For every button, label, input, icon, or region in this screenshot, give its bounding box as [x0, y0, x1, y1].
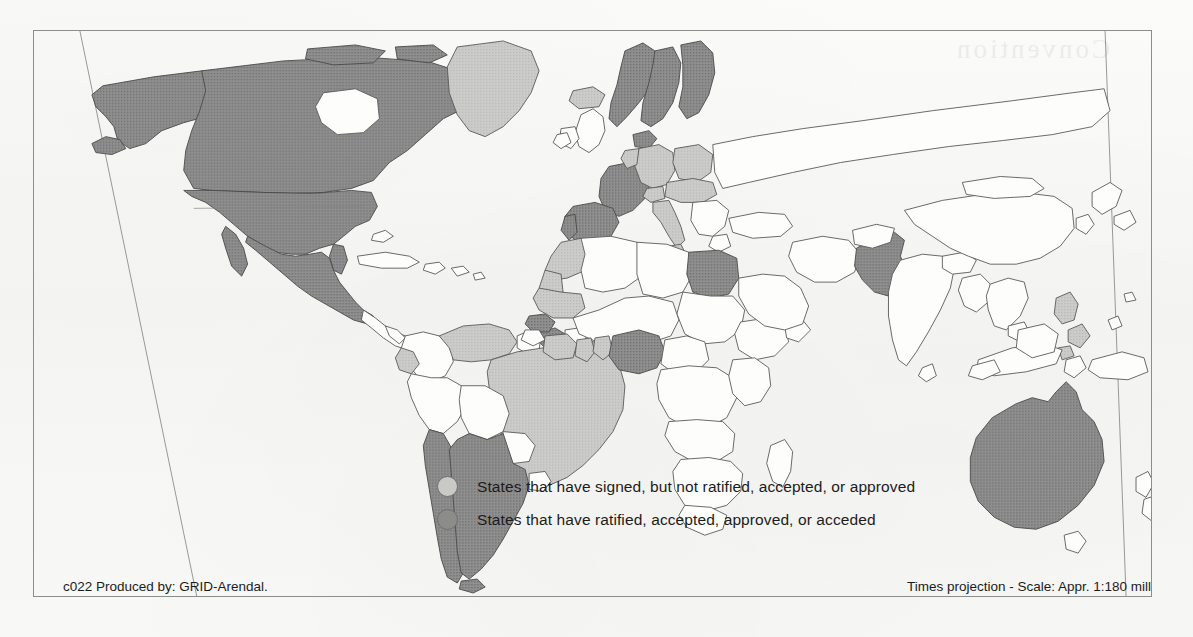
legend-item-ratified[interactable]: States that have ratified, accepted, app… [437, 503, 915, 536]
legend-swatch-signed [437, 476, 458, 497]
legend-swatch-ratified [437, 509, 458, 530]
region-north-america [92, 41, 605, 350]
map-page: Convention .land { fill:#fdfdfc; stroke:… [0, 0, 1193, 637]
legend-label-ratified: States that have ratified, accepted, app… [477, 511, 876, 529]
region-south-america [395, 324, 625, 593]
projection-scale-note: Times projection - Scale: Appr. 1:180 mi… [907, 579, 1151, 594]
legend: States that have signed, but not ratifie… [437, 470, 915, 536]
legend-label-signed: States that have signed, but not ratifie… [477, 478, 915, 496]
region-asia [739, 176, 1148, 381]
producer-credit: c022 Produced by: GRID-Arendal. [63, 579, 268, 594]
legend-item-signed[interactable]: States that have signed, but not ratifie… [437, 470, 915, 503]
region-oceania [970, 292, 1151, 553]
